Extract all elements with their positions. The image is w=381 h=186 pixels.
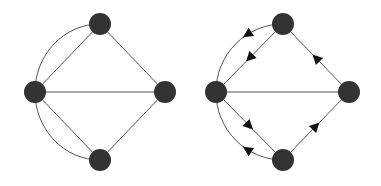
node-right <box>338 81 360 103</box>
node-top <box>89 13 111 35</box>
edge <box>35 24 100 92</box>
edge <box>35 92 100 160</box>
node-top <box>272 13 294 35</box>
arrow-head-icon <box>243 147 254 157</box>
node-left <box>24 81 46 103</box>
directed-graph <box>205 13 360 171</box>
node-right <box>154 81 176 103</box>
arrow-head-icon <box>243 28 254 38</box>
node-bottom <box>89 149 111 171</box>
graph-diagram <box>0 0 381 186</box>
undirected-graph <box>24 13 176 171</box>
node-bottom <box>272 149 294 171</box>
edge <box>100 92 165 160</box>
edge <box>100 24 165 92</box>
node-left <box>205 81 227 103</box>
